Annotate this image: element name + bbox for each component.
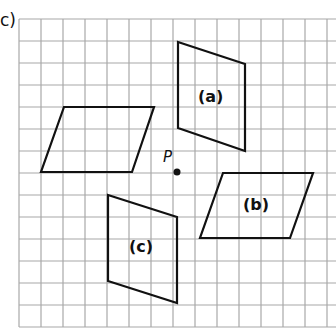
point-p [174, 169, 181, 176]
shape-c-label: (c) [129, 237, 153, 256]
shape-b-label: (b) [243, 195, 269, 214]
shape-a-label: (a) [198, 87, 223, 106]
parallelogram-original [41, 107, 154, 172]
part-label: c) [0, 10, 16, 30]
transformation-grid-diagram [0, 0, 336, 334]
point-p-label: P [163, 148, 172, 166]
